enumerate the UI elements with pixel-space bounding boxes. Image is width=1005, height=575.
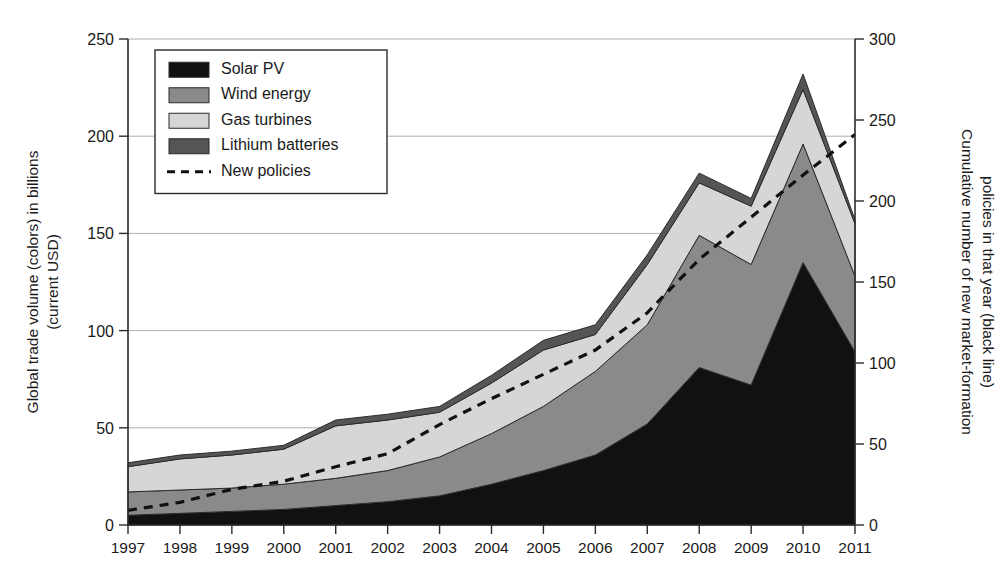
legend-item-lithium-batteries[interactable]: Lithium batteries <box>169 136 338 153</box>
x-axis-tick-label: 2005 <box>526 539 560 556</box>
y-axis-left-title-line1: Global trade volume (colors) in billions <box>24 150 41 413</box>
x-axis-tick-label: 2010 <box>786 539 821 556</box>
y-axis-right-tick-label: 300 <box>869 31 896 48</box>
y-axis-right-tick-label: 200 <box>869 193 896 210</box>
y-axis-left-tick-label: 50 <box>96 420 114 437</box>
legend-swatch-icon <box>169 139 209 154</box>
chart-legend: Solar PVWind energyGas turbinesLithium b… <box>155 50 387 194</box>
y-axis-right-ticks: 050100150200250300 <box>855 31 896 534</box>
x-axis-tick-label: 2000 <box>267 539 302 556</box>
y-axis-left-ticks: 050100150200250 <box>87 31 128 534</box>
x-axis-tick-label: 2006 <box>578 539 612 556</box>
y-axis-right-tick-label: 50 <box>869 436 887 453</box>
x-axis-tick-label: 2007 <box>630 539 664 556</box>
x-axis-tick-label: 2001 <box>318 539 352 556</box>
legend-swatch-icon <box>169 88 209 103</box>
y-axis-right-tick-label: 250 <box>869 112 896 129</box>
chart-figure: 050100150200250 050100150200250300 19971… <box>0 0 1005 575</box>
y-axis-left-tick-label: 150 <box>87 225 114 242</box>
x-axis-tick-label: 1998 <box>163 539 197 556</box>
y-axis-right-tick-label: 150 <box>869 274 896 291</box>
x-axis-tick-label: 2009 <box>734 539 768 556</box>
x-axis-tick-label: 2003 <box>422 539 456 556</box>
y-axis-right-title-line1: Cumulative number of new market-formatio… <box>959 129 976 435</box>
y-axis-left-tick-label: 250 <box>87 31 114 48</box>
legend-swatch-icon <box>169 62 209 77</box>
x-axis-tick-label: 2011 <box>838 539 871 556</box>
y-axis-left-tick-label: 200 <box>87 128 114 145</box>
y-axis-left-title-line2: (current USD) <box>44 234 61 330</box>
y-axis-right-title-line2: policies in that year (black line) <box>980 176 997 388</box>
x-axis-ticks: 1997199819992000200120022003200420052006… <box>111 525 872 556</box>
legend-item-wind-energy[interactable]: Wind energy <box>169 85 311 102</box>
y-axis-left-tick-label: 0 <box>105 517 114 534</box>
legend-swatch-icon <box>169 113 209 128</box>
legend-item-solar-pv[interactable]: Solar PV <box>169 60 284 77</box>
legend-item-label: New policies <box>221 162 311 179</box>
x-axis-tick-label: 1999 <box>215 539 249 556</box>
legend-item-gas-turbines[interactable]: Gas turbines <box>169 111 312 128</box>
stacked-area-chart: 050100150200250 050100150200250300 19971… <box>0 0 1005 575</box>
legend-item-label: Solar PV <box>221 60 284 77</box>
x-axis-tick-label: 1997 <box>111 539 145 556</box>
y-axis-left-tick-label: 100 <box>87 323 114 340</box>
y-axis-right-tick-label: 100 <box>869 355 896 372</box>
legend-item-label: Wind energy <box>221 85 311 102</box>
x-axis-tick-label: 2008 <box>682 539 716 556</box>
x-axis-tick-label: 2004 <box>474 539 509 556</box>
legend-item-label: Lithium batteries <box>221 136 338 153</box>
legend-item-label: Gas turbines <box>221 111 312 128</box>
x-axis-tick-label: 2002 <box>370 539 404 556</box>
y-axis-right-tick-label: 0 <box>869 517 878 534</box>
